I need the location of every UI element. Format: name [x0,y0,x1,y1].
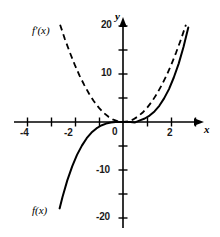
curve-f [60,28,189,209]
y-axis-title: y [115,10,120,22]
x-tick-label-zero: 0 [112,126,117,137]
curve-label-f: f(x) [32,204,47,216]
y-tick-label-pos10: 10 [101,67,112,78]
y-tick-label-neg10: -10 [96,164,110,175]
x-axis-title: x [204,123,210,135]
x-tick-label-neg4: -4 [20,127,29,138]
x-tick-label-neg2: -2 [64,127,73,138]
curve-label-f-prime: f'(x) [32,24,50,36]
y-tick-label-pos20: 20 [101,19,112,30]
x-tick-label-pos2: 2 [167,127,172,138]
y-tick-label-neg20: -20 [96,211,110,222]
graph-figure: -4 -2 0 2 20 10 -10 -20 y x f'(x) f(x) [0,0,220,237]
